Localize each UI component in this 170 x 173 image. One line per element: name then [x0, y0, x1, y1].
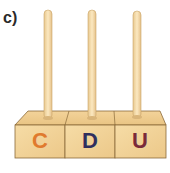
column-label-d: D	[65, 128, 115, 154]
rod-u	[132, 11, 142, 119]
rod-d	[87, 10, 97, 120]
column-label-u: U	[115, 128, 165, 154]
column-label-c: C	[15, 128, 65, 154]
rod-c	[43, 10, 53, 120]
